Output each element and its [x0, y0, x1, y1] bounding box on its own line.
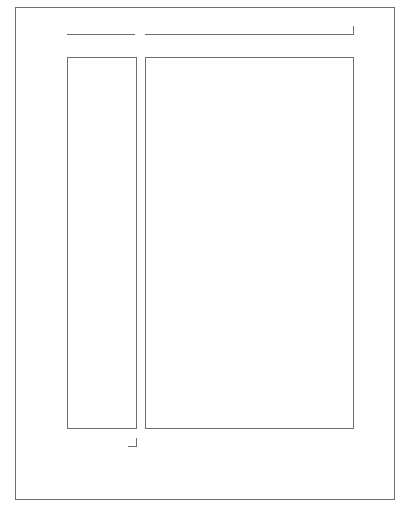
header-right-rule: [145, 34, 354, 35]
header-left-rule: [67, 34, 135, 35]
sidebar-column: [67, 57, 137, 429]
corner-mark: [128, 438, 137, 447]
main-column: [145, 57, 354, 429]
header-right-rule-tick: [353, 26, 354, 35]
